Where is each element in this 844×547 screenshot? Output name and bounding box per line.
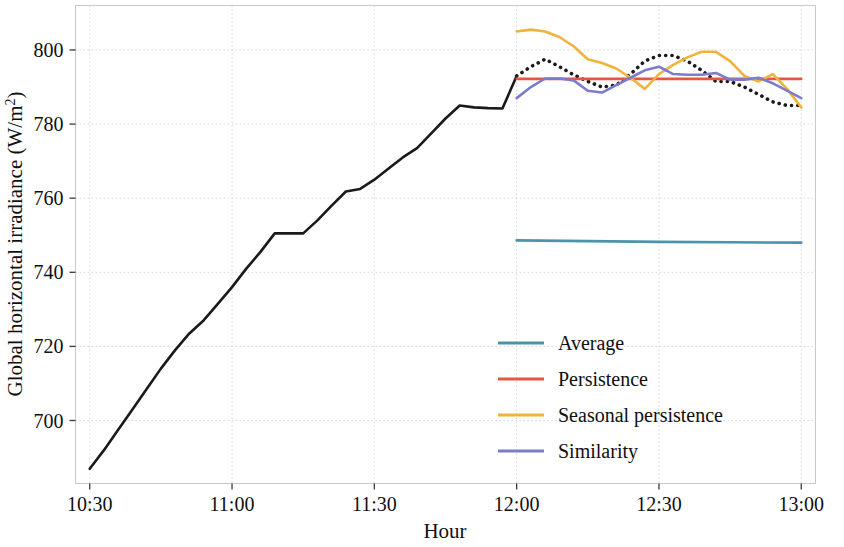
x-tick-label: 12:00: [494, 493, 540, 515]
legend-label-seasonal-persistence: Seasonal persistence: [558, 404, 723, 427]
chart-figure: 10:3011:0011:3012:0012:3013:00 700720740…: [0, 0, 844, 547]
y-tick-label: 780: [34, 113, 64, 135]
y-tick-label: 800: [34, 39, 64, 61]
y-axis-title: Global horizontal irradiance (W/m2): [3, 92, 28, 397]
legend-label-average: Average: [558, 332, 624, 355]
y-tick-label: 740: [34, 261, 64, 283]
legend-label-similarity: Similarity: [558, 440, 638, 463]
y-tick-label: 760: [34, 187, 64, 209]
y-tick-label: 700: [34, 410, 64, 432]
x-tick-label: 10:30: [67, 493, 113, 515]
irradiance-forecast-chart: 10:3011:0011:3012:0012:3013:00 700720740…: [0, 0, 844, 547]
x-tick-label: 11:00: [210, 493, 255, 515]
y-tick-label: 720: [34, 335, 64, 357]
legend-label-persistence: Persistence: [558, 368, 648, 390]
figure-background: [0, 0, 844, 547]
x-tick-label: 13:00: [778, 493, 824, 515]
x-axis-title: Hour: [423, 519, 466, 543]
x-tick-label: 11:30: [352, 493, 397, 515]
x-tick-label: 12:30: [636, 493, 682, 515]
